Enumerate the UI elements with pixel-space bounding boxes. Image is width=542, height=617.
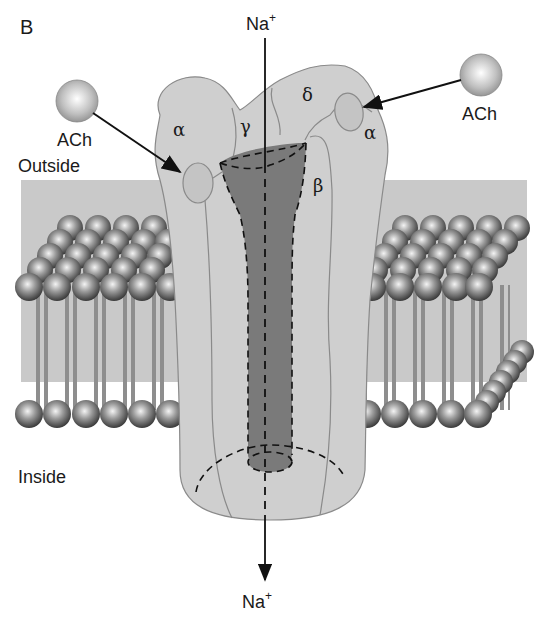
subunit-label-alpha-right: α [364, 122, 376, 143]
region-label-inside: Inside [18, 467, 66, 487]
region-label-outside: Outside [18, 156, 80, 176]
ach-molecule-right [460, 54, 502, 96]
ach-label-right: ACh [462, 104, 497, 124]
panel-label: B [20, 16, 33, 38]
ach-arrow-right [364, 80, 461, 107]
ion-label-top: Na+ [246, 11, 276, 34]
subunit-label-delta: δ [302, 84, 313, 105]
subunit-label-alpha-left: α [173, 119, 185, 140]
nicotinic-receptor-diagram: B Na+ Na+ ACh ACh Outside Inside α γ δ α… [0, 0, 542, 617]
subunit-label-beta: β [313, 175, 323, 196]
ion-label-bottom: Na+ [242, 589, 272, 612]
lipid-bilayer-left [15, 215, 192, 428]
lipid-bilayer-right [353, 215, 534, 428]
ach-label-left: ACh [57, 130, 92, 150]
subunit-label-gamma: γ [240, 116, 251, 137]
ach-molecule-left [56, 80, 98, 122]
acetylcholine-receptor [155, 65, 388, 520]
binding-site-left [183, 163, 213, 203]
